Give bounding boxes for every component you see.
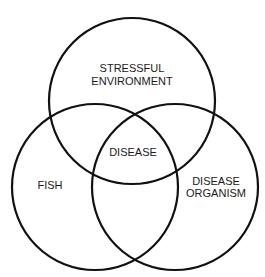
circle-stressful-environment: [49, 18, 215, 184]
label-stressful: STRESSFUL: [100, 62, 165, 74]
label-disease-organism-line1: DISEASE: [192, 175, 240, 187]
label-disease-organism-line2: ORGANISM: [186, 187, 246, 199]
label-environment: ENVIRONMENT: [91, 75, 173, 87]
label-disease-intersection: DISEASE: [109, 146, 157, 158]
venn-diagram: STRESSFUL ENVIRONMENT DISEASE FISH DISEA…: [0, 0, 265, 277]
label-fish: FISH: [37, 179, 62, 191]
